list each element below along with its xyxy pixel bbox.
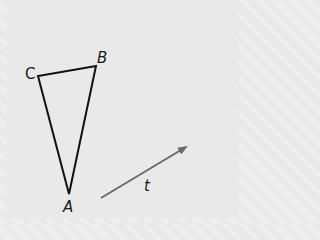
vertex-label-a: A	[62, 198, 73, 216]
vector-label-t: t	[144, 177, 151, 195]
vertex-label-b: B	[97, 49, 107, 67]
vertex-label-c: C	[25, 65, 35, 83]
diagram-canvas: C B A t	[0, 0, 244, 224]
triangle-abc	[38, 66, 96, 194]
